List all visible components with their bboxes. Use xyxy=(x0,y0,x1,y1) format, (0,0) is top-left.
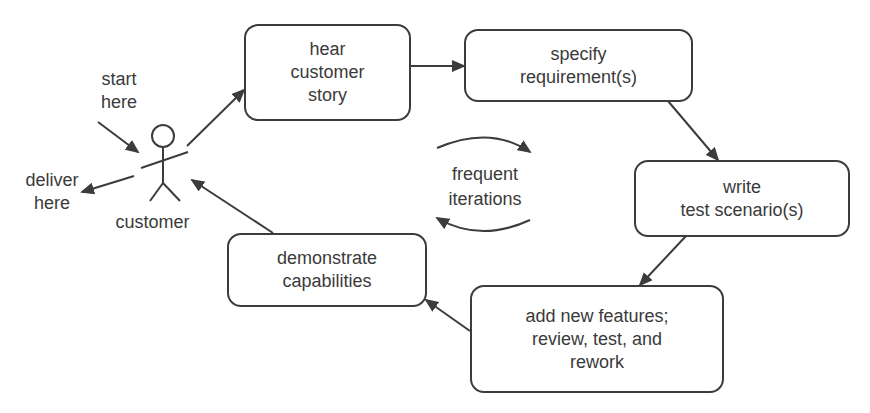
iteration-arrow-top-icon xyxy=(437,137,530,152)
step-text: hear xyxy=(290,38,364,61)
step-text: test scenario(s) xyxy=(680,199,803,222)
step-text: rework xyxy=(525,351,668,374)
step-specify-requirements: specify requirement(s) xyxy=(464,29,693,102)
start-here-line-1: start xyxy=(84,68,154,91)
flow-write-to-add xyxy=(640,236,686,285)
step-text: add new features; xyxy=(525,305,668,328)
customer-label: customer xyxy=(100,211,205,234)
step-demonstrate-capabilities: demonstrate capabilities xyxy=(227,233,427,307)
start-arrow xyxy=(98,122,138,152)
step-text: customer xyxy=(290,61,364,84)
step-add-new-features: add new features; review, test, and rewo… xyxy=(470,285,724,393)
frequent-iterations-line-1: frequent xyxy=(432,162,538,187)
flow-customer-to-hear xyxy=(187,90,244,146)
frequent-iterations-label: frequent iterations xyxy=(432,162,538,212)
deliver-here-line-2: here xyxy=(12,192,92,215)
frequent-iterations-line-2: iterations xyxy=(432,187,538,212)
step-text: specify xyxy=(520,43,637,66)
iteration-arrow-bottom-icon xyxy=(437,218,530,231)
step-text: demonstrate xyxy=(277,247,377,270)
step-text: requirement(s) xyxy=(520,66,637,89)
start-here-label: start here xyxy=(84,68,154,114)
deliver-here-line-1: deliver xyxy=(12,169,92,192)
deliver-here-label: deliver here xyxy=(12,169,92,215)
flow-add-to-demonstrate xyxy=(426,300,470,331)
customer-actor-icon xyxy=(141,125,188,201)
step-text: story xyxy=(290,84,364,107)
step-write-test-scenarios: write test scenario(s) xyxy=(634,160,850,237)
step-text: write xyxy=(680,176,803,199)
step-text: review, test, and xyxy=(525,328,668,351)
step-hear-customer-story: hear customer story xyxy=(244,24,411,121)
flow-specify-to-write xyxy=(668,101,718,160)
step-text: capabilities xyxy=(277,270,377,293)
start-here-line-2: here xyxy=(84,91,154,114)
